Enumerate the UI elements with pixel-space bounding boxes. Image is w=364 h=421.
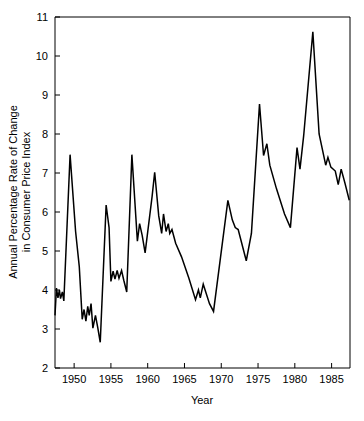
x-tick-label: 1950 <box>62 373 86 385</box>
y-axis-title-line1: Annual Percentage Rate of Change <box>7 105 19 279</box>
y-tick-label: 8 <box>42 128 48 140</box>
y-tick-label: 11 <box>37 11 48 23</box>
y-tick-label: 5 <box>42 245 48 257</box>
x-tick-label: 1980 <box>283 373 307 385</box>
x-tick-label: 1975 <box>246 373 270 385</box>
x-axis-title: Year <box>191 394 214 406</box>
y-tick-label: 10 <box>36 50 48 62</box>
y-tick-label: 4 <box>42 284 48 296</box>
x-tick-label: 1960 <box>135 373 159 385</box>
y-tick-label: 2 <box>42 362 48 374</box>
y-axis-title-line2: in Consumer Price Index <box>20 131 32 252</box>
y-tick-label: 7 <box>42 167 48 179</box>
chart-figure: 234567891011 195019551960196519701975198… <box>0 0 364 421</box>
x-tick-label: 1965 <box>172 373 196 385</box>
cpi-line-chart: 234567891011 195019551960196519701975198… <box>0 0 364 421</box>
y-tick-label: 6 <box>42 206 48 218</box>
y-tick-label: 9 <box>42 89 48 101</box>
x-tick-label: 1970 <box>209 373 233 385</box>
x-tick-label: 1985 <box>319 373 343 385</box>
y-tick-label: 3 <box>42 323 48 335</box>
x-tick-label: 1955 <box>99 373 123 385</box>
